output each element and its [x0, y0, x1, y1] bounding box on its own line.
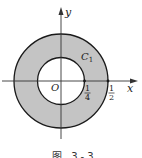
- figure-caption: 图 3-3: [52, 151, 97, 158]
- origin-label: O: [51, 82, 59, 93]
- y-axis-label: y: [64, 6, 72, 19]
- point-quarter: [83, 80, 86, 83]
- curve-label-subscript: 1: [89, 56, 93, 64]
- tick-label-half: 1 2: [109, 84, 115, 102]
- tick-half-numerator: 1: [109, 84, 114, 93]
- y-axis-arrow-icon: [59, 7, 64, 15]
- tick-label-quarter: 1 4: [85, 84, 91, 102]
- tick-quarter-numerator: 1: [85, 84, 90, 93]
- tick-half-denominator: 2: [109, 93, 114, 102]
- point-half: [107, 80, 110, 83]
- x-axis-label: x: [127, 82, 134, 95]
- tick-quarter-denominator: 4: [85, 93, 90, 102]
- annulus-diagram: y x O C1 1 4 1 2 图 3-3: [0, 0, 142, 158]
